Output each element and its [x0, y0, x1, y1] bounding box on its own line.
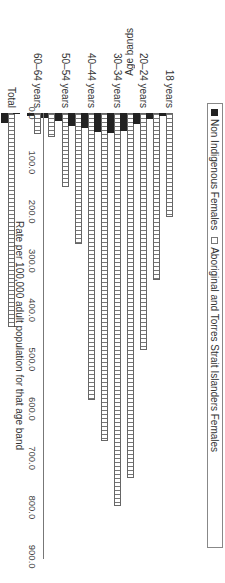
bar-aboriginal [75, 113, 82, 244]
value-tick-label: 600.0 [27, 397, 38, 421]
category-label: 20–24 years [138, 53, 149, 112]
plot-area [45, 113, 220, 558]
chart-frame: 0.0100.0200.0300.0400.0500.0600.0700.080… [0, 0, 225, 583]
value-tick-label: 100.0 [27, 150, 38, 174]
category-label: 60–64 years [32, 53, 43, 112]
bar-non-indigenous [107, 113, 114, 133]
value-axis-title: Rate per 100,000 adult population for th… [14, 113, 25, 558]
legend-label: Aboriginal and Torres Strait Islanders F… [210, 247, 221, 452]
value-tick-label: 200.0 [27, 200, 38, 224]
bar-aboriginal [153, 113, 160, 280]
bar-non-indigenous [133, 113, 140, 124]
bar-aboriginal [48, 113, 55, 137]
legend-swatch-hatched-icon [212, 237, 219, 244]
category-label: 30–34 years [112, 53, 123, 112]
bar-non-indigenous [159, 113, 166, 116]
legend-label: Non Indigenous Females [210, 119, 221, 230]
bar-non-indigenous [146, 113, 153, 119]
value-tick-label: 900.0 [27, 545, 38, 569]
bar-non-indigenous [120, 113, 127, 131]
category-label: 40–44 years [86, 53, 97, 112]
bar-non-indigenous [55, 113, 62, 121]
value-tick-label: 300.0 [27, 249, 38, 273]
category-label: 50–54 years [60, 53, 71, 112]
bar-aboriginal [166, 113, 173, 217]
bar-non-indigenous [1, 113, 8, 123]
legend-item-non-indigenous: Non Indigenous Females [210, 109, 221, 230]
bar-aboriginal [127, 113, 134, 478]
legend-swatch-dark-icon [212, 109, 219, 116]
legend: Non Indigenous Females Aboriginal and To… [207, 103, 223, 548]
value-tick-label: 800.0 [27, 496, 38, 520]
value-axis-title-text: Rate per 100,000 adult population for th… [14, 221, 25, 450]
bar-non-indigenous [68, 113, 75, 126]
bar-aboriginal [114, 113, 121, 506]
value-tick-label: 700.0 [27, 446, 38, 470]
bar-non-indigenous [94, 113, 101, 132]
bar-aboriginal [88, 113, 95, 400]
value-tick-label: 500.0 [27, 348, 38, 372]
value-tick-label: 400.0 [27, 298, 38, 322]
bar-aboriginal [140, 113, 147, 350]
category-axis-title: Age bands [124, 28, 135, 76]
bar-non-indigenous [81, 113, 88, 128]
value-axis-line [43, 113, 44, 559]
category-label: 18 years [164, 70, 175, 112]
category-label: Total [6, 87, 17, 112]
legend-item-aboriginal: Aboriginal and Torres Strait Islanders F… [210, 237, 221, 452]
bar-aboriginal [101, 113, 108, 441]
